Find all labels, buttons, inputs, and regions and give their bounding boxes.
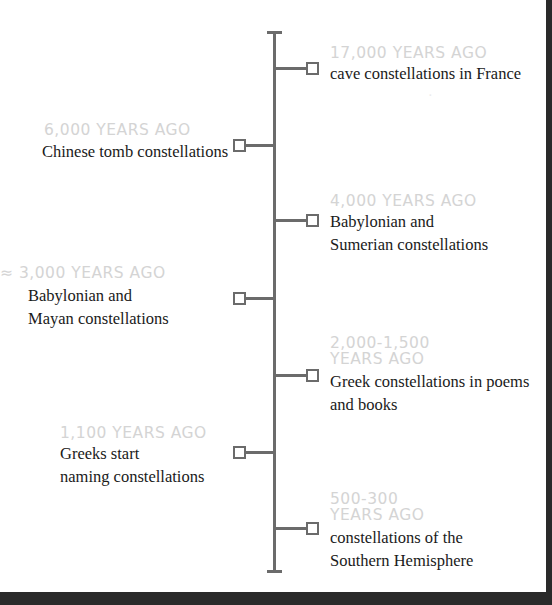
event-desc-4000-line2: Sumerian constellations [330, 233, 488, 257]
faint-mark: · [428, 88, 433, 104]
timeline-top-cap [267, 31, 282, 34]
event-desc-500-line2: Southern Hemisphere [330, 549, 473, 573]
event-marker-17000 [306, 62, 319, 75]
event-header-6000: 6,000 YEARS AGO [44, 122, 191, 139]
event-marker-4000 [306, 214, 319, 227]
event-marker-500 [306, 522, 319, 535]
connector-17000 [275, 67, 308, 70]
connector-6000 [243, 144, 274, 147]
event-header-4000: 4,000 YEARS AGO [330, 193, 477, 210]
connector-4000 [275, 219, 308, 222]
event-desc-6000: Chinese tomb constellations [42, 140, 228, 164]
event-desc-1100-line2: naming constellations [60, 465, 204, 489]
connector-500 [275, 527, 308, 530]
timeline-canvas: 17,000 YEARS AGO cave constellations in … [0, 0, 546, 592]
connector-1100 [243, 451, 274, 454]
event-desc-3000-line1: Babylonian and [28, 284, 132, 308]
event-desc-2000-line2: and books [330, 393, 397, 417]
connector-2000 [275, 374, 308, 377]
event-marker-1100 [233, 446, 246, 459]
event-desc-3000-line2: Mayan constellations [28, 307, 169, 331]
timeline-spine [273, 32, 276, 572]
event-marker-2000 [306, 369, 319, 382]
event-desc-4000-line1: Babylonian and [330, 210, 434, 234]
connector-3000 [243, 297, 274, 300]
event-desc-1100-line1: Greeks start [60, 442, 139, 466]
event-desc-2000-line1: Greek constellations in poems [330, 370, 529, 394]
event-header-17000: 17,000 YEARS AGO [330, 45, 487, 62]
event-marker-6000 [233, 139, 246, 152]
event-header-3000: ≈ 3,000 YEARS AGO [0, 265, 166, 282]
event-desc-500-line1: constellations of the [330, 526, 463, 550]
event-desc-17000: cave constellations in France [330, 62, 521, 86]
event-header-500-line2: YEARS AGO [330, 507, 424, 524]
event-marker-3000 [233, 292, 246, 305]
event-header-1100: 1,100 YEARS AGO [60, 425, 207, 442]
timeline-bottom-cap [267, 570, 282, 573]
event-header-2000-line2: YEARS AGO [330, 351, 424, 368]
